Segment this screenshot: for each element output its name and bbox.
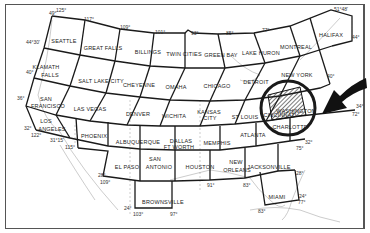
- degree-label: 109°: [120, 25, 130, 30]
- degree-label: 109°: [100, 180, 110, 185]
- chart-label: SEATTLE: [51, 38, 76, 44]
- degree-label: 24°: [124, 206, 132, 211]
- chart-label: DETROIT: [243, 79, 269, 85]
- degree-label: 83°: [243, 183, 251, 188]
- degree-label: 97°: [170, 212, 178, 217]
- degree-label: 31°15': [50, 138, 64, 143]
- chart-label: PHOENIX: [81, 133, 107, 139]
- degree-label: 36°: [17, 96, 25, 101]
- degree-label: 51°48': [334, 7, 348, 12]
- degree-label: 75°: [296, 146, 304, 151]
- degree-label: 44°30': [26, 40, 40, 45]
- degree-label: 40°: [26, 70, 34, 75]
- chart-label: NEW YORK: [281, 72, 312, 78]
- degree-label: 85°: [226, 31, 234, 36]
- chart-label: WICHITA: [162, 113, 186, 119]
- chart-label: BROWNSVILLE: [142, 199, 184, 205]
- chart-label: CHICAGO: [203, 83, 230, 89]
- chart-label: FT WORTH: [164, 144, 194, 150]
- chart-label: GREEN BAY: [204, 52, 237, 58]
- chart-label: MEMPHIS: [203, 140, 230, 146]
- chart-label: FRANCISCO: [31, 103, 65, 109]
- chart-label: SAN: [40, 96, 52, 102]
- chart-label: ALBUQUERQUE: [116, 139, 160, 145]
- chart-label: HOUSTON: [186, 164, 215, 170]
- degree-label: 77°: [262, 28, 270, 33]
- degree-label: 32°: [24, 126, 32, 131]
- chart-label: BILLINGS: [135, 49, 161, 55]
- chart-label: TWIN CITIES: [166, 51, 202, 57]
- degree-label: 28°: [98, 173, 106, 178]
- degree-label: 83°: [258, 209, 266, 214]
- chart-label: ST LOUIS: [232, 114, 259, 120]
- chart-label: CITY: [203, 115, 216, 121]
- chart-label: GREAT FALLS: [84, 45, 123, 51]
- degree-label: 103°: [133, 212, 143, 217]
- degree-label: 40°: [327, 74, 335, 79]
- degree-label: 28°: [296, 171, 304, 176]
- degree-label: 101°: [155, 30, 165, 35]
- chart-label: ATLANTA: [240, 132, 265, 138]
- chart-label: CHEYENNE: [123, 82, 155, 88]
- chart-label: LAS VEGAS: [74, 106, 107, 112]
- chart-label: ANTONIO: [146, 164, 172, 170]
- degree-label: 93°: [191, 31, 199, 36]
- chart-label: NEW: [229, 159, 242, 165]
- chart-label: ANGELES: [38, 126, 65, 132]
- chart-label: DENVER: [126, 111, 150, 117]
- chart-label: OMAHA: [165, 84, 186, 90]
- chart-label: CHARLOTTE: [272, 124, 307, 130]
- chart-label: HALIFAX: [319, 32, 343, 38]
- chart-label: LOS: [40, 118, 52, 124]
- chart-label: MONTREAL: [280, 44, 312, 50]
- chart-label: WASHINGTON: [276, 108, 316, 114]
- degree-label: 91°: [207, 183, 215, 188]
- chart-label: SALT LAKE CITY: [78, 78, 124, 84]
- chart-label: LAKE HURON: [242, 50, 280, 56]
- degree-label: 115°: [65, 145, 75, 150]
- chart-label: SAN: [149, 156, 161, 162]
- chart-label: JACKSONVILLE: [247, 164, 290, 170]
- chart-label: MIAMI: [269, 194, 286, 200]
- degree-label: 34°: [356, 104, 364, 109]
- degree-label: 122°: [31, 133, 41, 138]
- degree-label: 125°: [56, 8, 66, 13]
- degree-label: 77°: [298, 200, 306, 205]
- degree-label: 117°: [84, 17, 94, 22]
- chart-label: KLAMATH: [33, 64, 60, 70]
- degree-label: 32°: [305, 140, 313, 145]
- chart-label: FALLS: [41, 72, 59, 78]
- chart-label: EL PASO: [115, 164, 139, 170]
- degree-label: 72°: [352, 112, 360, 117]
- degree-label: 44°: [352, 35, 360, 40]
